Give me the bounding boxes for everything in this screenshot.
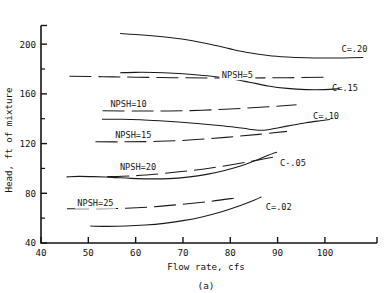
- npsh-labels-group: NPSH=5NPSH=10NPSH=15NPSH=20NPSH=25: [75, 69, 255, 209]
- npsh-line-label: NPSH=15: [115, 130, 151, 140]
- npsh-lines-group: [67, 76, 325, 209]
- c-curve-labels-group: C=.20C=.15C=.10C-.05C=.02: [266, 44, 368, 212]
- figure-container: C=.20C=.15C=.10C-.05C=.02 NPSH=5NPSH=10N…: [0, 0, 391, 293]
- y-tick-label: 160: [19, 88, 36, 99]
- c-curve-label: C-.05: [280, 158, 306, 168]
- x-tick-label: 40: [35, 247, 46, 258]
- npsh-line-label: NPSH=25: [77, 198, 113, 208]
- x-tick-label: 100: [317, 247, 334, 258]
- npsh-line-label: NPSH=10: [110, 99, 146, 109]
- c-curve: [67, 152, 277, 179]
- npsh-line-label: NPSH=20: [120, 162, 156, 172]
- npsh-line: [69, 76, 325, 78]
- x-tick-label: 90: [272, 247, 283, 258]
- x-tick-label: 80: [225, 247, 236, 258]
- x-tick-label: 60: [130, 247, 141, 258]
- c-curve: [103, 119, 330, 130]
- y-axis-title: Head, ft of mixture: [3, 87, 14, 192]
- c-curve-label: C=.15: [332, 83, 358, 93]
- c-curve-label: C=.02: [266, 202, 292, 212]
- c-curve: [91, 197, 261, 226]
- x-axis-title: Flow rate, cfs: [167, 261, 244, 272]
- y-tick-label: 200: [19, 39, 36, 50]
- y-axis-ticks: [41, 26, 47, 244]
- y-tick-label: 120: [19, 138, 36, 149]
- figure-caption: (a): [198, 280, 215, 291]
- x-tick-label: 50: [83, 247, 94, 258]
- head-vs-flow-rate-chart: C=.20C=.15C=.10C-.05C=.02 NPSH=5NPSH=10N…: [0, 0, 391, 293]
- npsh-line-label: NPSH=5: [222, 70, 253, 80]
- y-tick-label: 40: [25, 237, 36, 248]
- x-tick-label: 70: [177, 247, 188, 258]
- y-tick-label: 80: [25, 188, 36, 199]
- c-curve-label: C=.10: [313, 111, 339, 121]
- tick-labels-group: 4050607080901004080120160200: [19, 39, 333, 258]
- c-curve-label: C=.20: [342, 44, 368, 54]
- c-curve: [121, 34, 363, 58]
- x-axis-ticks: [41, 237, 377, 243]
